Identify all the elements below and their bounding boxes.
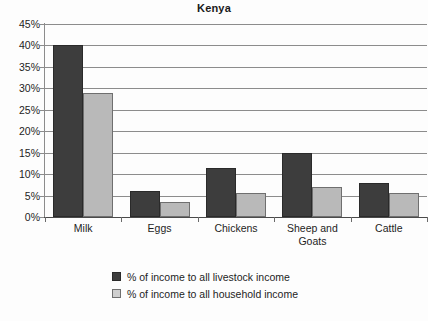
gridline (45, 24, 427, 25)
bar (130, 191, 160, 217)
gridline (45, 45, 427, 46)
y-axis-tick-label: 35% (2, 61, 40, 73)
bar (282, 153, 312, 217)
legend-item-label: % of income to all household income (127, 288, 298, 300)
x-axis-category-label: Sheep and Goats (274, 222, 350, 247)
y-axis-tick-label: 40% (2, 39, 40, 51)
bar (160, 202, 190, 217)
legend: % of income to all livestock income% of … (112, 268, 362, 302)
gridline (45, 88, 427, 89)
y-axis-tick-label: 10% (2, 168, 40, 180)
bar (53, 45, 83, 217)
legend-item-label: % of income to all livestock income (127, 271, 290, 283)
y-axis-tick-label: 20% (2, 125, 40, 137)
x-axis-line (44, 217, 428, 218)
bar (312, 187, 342, 217)
bar (359, 183, 389, 217)
y-axis-tick-label: 45% (2, 18, 40, 30)
chart-container: Kenya 45%40%35%30%25%20%15%10%5%0% MilkE… (0, 0, 428, 321)
bar (389, 193, 419, 217)
y-axis-tick-label: 15% (2, 147, 40, 159)
gridline (45, 67, 427, 68)
y-axis-tick-label: 25% (2, 104, 40, 116)
y-axis-tick-label: 30% (2, 82, 40, 94)
legend-swatch-icon (112, 272, 121, 281)
y-axis-tick-label: 0% (2, 211, 40, 223)
bar (206, 168, 236, 217)
chart-title: Kenya (0, 2, 428, 14)
bar (83, 93, 113, 217)
legend-swatch-icon (112, 289, 121, 298)
y-axis-line (44, 23, 45, 218)
legend-item: % of income to all livestock income (112, 268, 362, 285)
legend-item: % of income to all household income (112, 285, 362, 302)
x-axis-category-label: Milk (45, 222, 121, 235)
x-axis-category-label: Chickens (198, 222, 274, 235)
y-axis-labels: 45%40%35%30%25%20%15%10%5%0% (0, 0, 40, 321)
plot-area (45, 24, 427, 217)
x-axis-category-label: Cattle (351, 222, 427, 235)
x-axis-category-label: Eggs (121, 222, 197, 235)
bar (236, 193, 266, 217)
y-axis-tick-label: 5% (2, 190, 40, 202)
